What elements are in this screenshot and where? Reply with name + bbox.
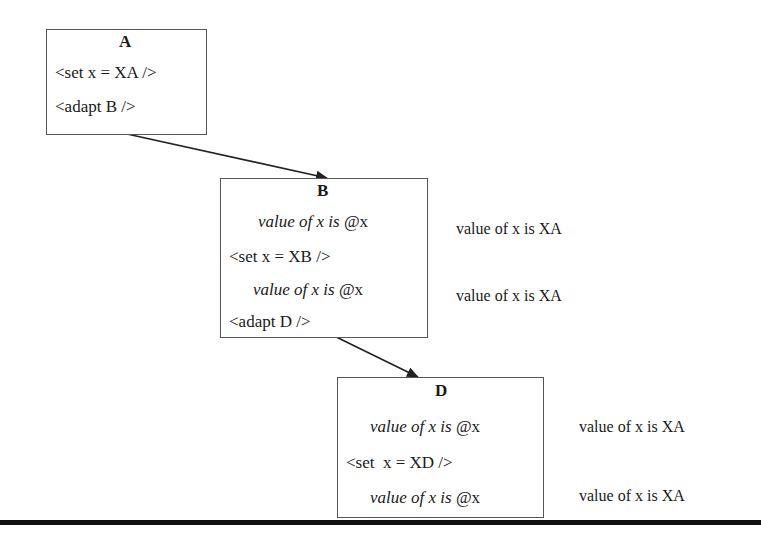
- node-b-title: B: [317, 181, 328, 201]
- variable-ref: @x: [456, 488, 480, 507]
- node-b-annotation-2: value of x is XA: [456, 287, 562, 305]
- node-d-annotation-2: value of x is XA: [579, 487, 685, 505]
- value-label: value of x is: [370, 488, 456, 507]
- node-a-title: A: [119, 32, 131, 52]
- node-d-value-line-1: value of x is @x: [370, 417, 480, 437]
- node-d: D value of x is @x <set x = XD /> value …: [337, 377, 544, 518]
- node-a: A <set x = XA /> <adapt B />: [46, 29, 207, 135]
- node-d-set-statement: <set x = XD />: [346, 453, 453, 473]
- variable-ref: @x: [344, 212, 368, 231]
- node-b-value-line-2: value of x is @x: [253, 280, 363, 300]
- bottom-rule: [0, 520, 761, 525]
- value-label: value of x is: [370, 417, 456, 436]
- node-d-annotation-1: value of x is XA: [579, 418, 685, 436]
- value-label: value of x is: [258, 212, 344, 231]
- node-d-value-line-2: value of x is @x: [370, 488, 480, 508]
- value-label: value of x is: [253, 280, 339, 299]
- node-d-title: D: [435, 381, 447, 401]
- node-b-annotation-1: value of x is XA: [456, 220, 562, 238]
- node-b-value-line-1: value of x is @x: [258, 212, 368, 232]
- edge-b-to-d: [328, 333, 418, 377]
- edge-a-to-b: [127, 134, 327, 178]
- node-b: B value of x is @x <set x = XB /> value …: [220, 178, 428, 338]
- variable-ref: @x: [456, 417, 480, 436]
- node-b-set-statement: <set x = XB />: [229, 247, 331, 267]
- node-a-adapt-statement: <adapt B />: [55, 97, 136, 117]
- variable-ref: @x: [339, 280, 363, 299]
- node-a-set-statement: <set x = XA />: [55, 63, 157, 83]
- node-b-adapt-statement: <adapt D />: [229, 312, 311, 332]
